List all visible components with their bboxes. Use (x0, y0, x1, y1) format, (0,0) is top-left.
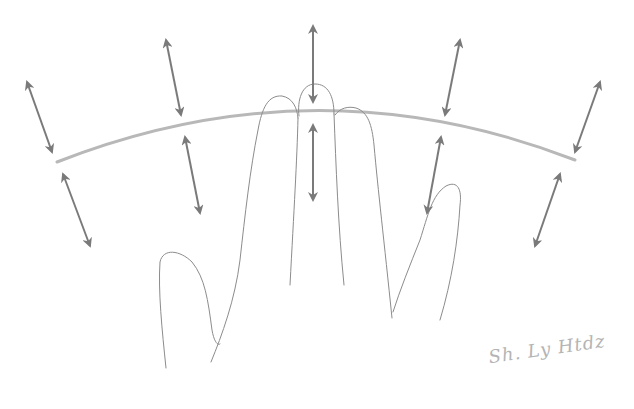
double-arrow-icon (575, 82, 600, 152)
arrows-below-arc (63, 125, 560, 246)
double-arrow-icon (427, 137, 441, 213)
middle-finger-right-edge (334, 114, 344, 285)
pinky-outline (393, 184, 460, 320)
double-arrow-icon (535, 174, 560, 246)
fingertip-arc (57, 110, 575, 162)
index-finger-inner-edge (290, 118, 298, 285)
double-arrow-icon (166, 40, 181, 115)
double-arrow-icon (445, 40, 460, 115)
double-arrow-icon (63, 174, 90, 246)
ring-finger-outline (335, 107, 392, 318)
thumb-outline (159, 252, 220, 368)
double-arrow-icon (185, 137, 200, 213)
double-arrow-icon (27, 82, 52, 152)
index-finger-outline (211, 96, 298, 362)
hand-outline (159, 84, 460, 368)
